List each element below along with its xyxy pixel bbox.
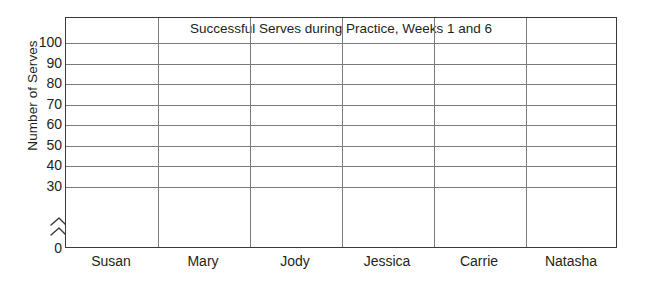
- y-axis-tick-label: 70: [24, 97, 62, 111]
- gridline-vertical: [526, 18, 527, 247]
- x-axis-tick-label: Mary: [157, 252, 249, 270]
- y-axis-tick-label: 0: [24, 241, 62, 255]
- y-axis-tick-labels: 030405060708090100: [24, 0, 62, 286]
- y-axis-tick-label: 90: [24, 56, 62, 70]
- gridline-vertical: [342, 18, 343, 247]
- x-axis-tick-labels: SusanMaryJodyJessicaCarrieNatasha: [65, 252, 617, 276]
- x-axis-tick-label: Jessica: [341, 252, 433, 270]
- gridline-horizontal: [66, 187, 616, 188]
- gridline-horizontal: [66, 105, 616, 106]
- y-axis-tick-label: 80: [24, 76, 62, 90]
- gridline-horizontal: [66, 125, 616, 126]
- y-axis-tick-label: 100: [24, 35, 62, 49]
- x-axis-tick-label: Natasha: [525, 252, 617, 270]
- bar-chart: Number of Serves 030405060708090100 Succ…: [0, 0, 655, 286]
- gridline-vertical: [250, 18, 251, 247]
- y-axis-tick-label: 60: [24, 117, 62, 131]
- y-axis-tick-label: 40: [24, 158, 62, 172]
- chart-title: Successful Serves during Practice, Weeks…: [66, 21, 616, 37]
- x-axis-tick-label: Susan: [65, 252, 157, 270]
- gridline-horizontal: [66, 84, 616, 85]
- gridline-horizontal: [66, 146, 616, 147]
- plot-area: Successful Serves during Practice, Weeks…: [65, 17, 617, 248]
- y-axis-tick-label: 50: [24, 138, 62, 152]
- gridline-horizontal: [66, 166, 616, 167]
- gridline-horizontal: [66, 43, 616, 44]
- gridline-vertical: [158, 18, 159, 247]
- y-axis-tick-label: 30: [24, 179, 62, 193]
- x-axis-tick-label: Jody: [249, 252, 341, 270]
- gridline-horizontal: [66, 64, 616, 65]
- gridline-vertical: [434, 18, 435, 247]
- x-axis-tick-label: Carrie: [433, 252, 525, 270]
